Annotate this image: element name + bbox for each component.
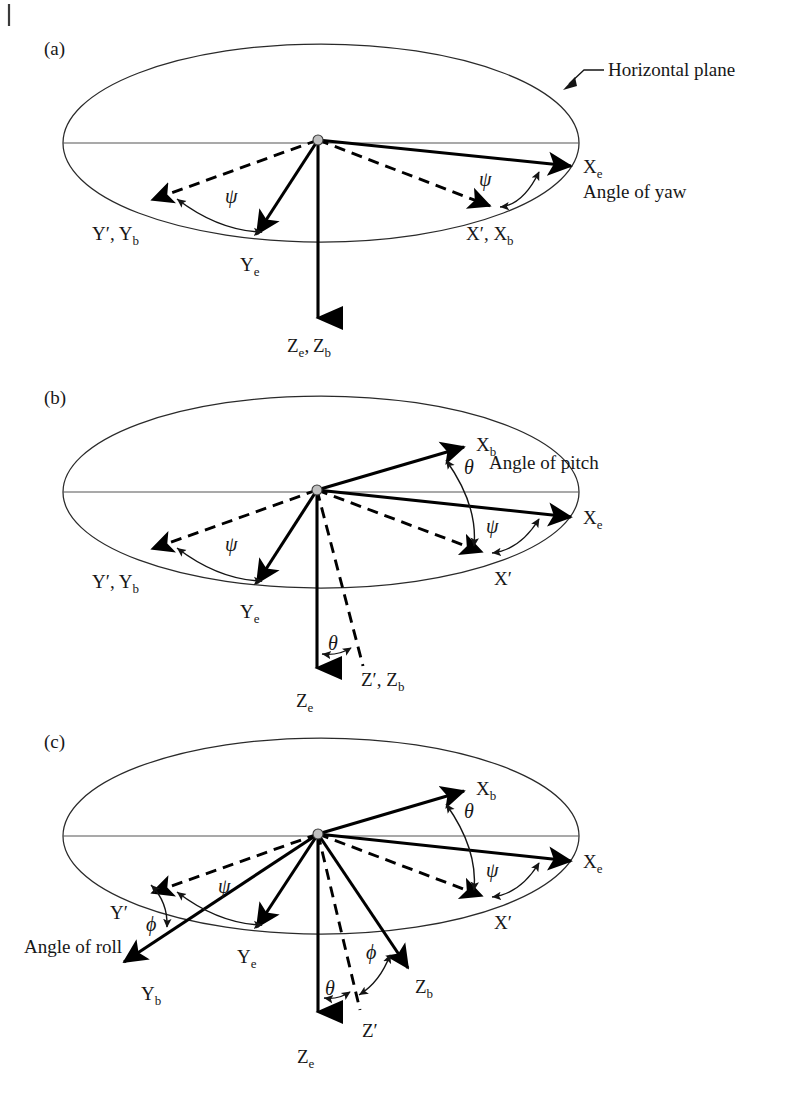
label-xe-c: Xe [583,851,603,876]
axis-zprime-zb-b [317,490,363,666]
label-yprime-yb-b: Y′, Yb [92,571,139,596]
angle-of-pitch-label: Angle of pitch [489,452,599,473]
figure-page: (a) Horizontal plane Xe Angle of yaw X′,… [0,0,804,1103]
origin-hub-b [312,485,322,495]
axis-yb-c [124,834,318,962]
label-yb-c: Yb [141,983,161,1008]
label-ze-c: Ze [297,1046,315,1071]
axis-ye-c [257,834,318,927]
theta-label-bottom-b: θ [328,632,338,654]
phi-label-bottom-c: ϕ [366,941,376,964]
label-zb-c: Zb [415,976,433,1001]
panel-c-roll [63,738,579,1012]
axis-ye-b [257,490,317,583]
panel-a-yaw [63,44,604,318]
psi-arc-left-b [177,548,262,581]
panel-label-c: (c) [44,731,65,753]
label-zprime-c: Z′ [362,1020,378,1041]
psi-arc-right-a [500,172,539,207]
angle-of-yaw-label: Angle of yaw [583,181,687,202]
origin-hub-c [313,829,323,839]
axis-yprime-c [152,834,318,893]
theta-label-top-b: θ [464,456,474,478]
label-yprime-c: Y′ [110,902,128,923]
horizontal-plane-arrowhead [563,77,577,90]
angle-of-roll-label: Angle of roll [24,936,122,957]
label-xprime-b: X′ [494,568,512,589]
label-xprime-xb-a: X′, Xb [466,223,514,248]
psi-label-right-a: ψ [479,168,492,191]
label-yprime-yb-a: Y′, Yb [92,223,139,248]
label-ye-a: Ye [240,254,260,279]
origin-hub-a [313,135,323,145]
axis-xe-a [318,140,571,166]
euler-angle-diagram: (a) Horizontal plane Xe Angle of yaw X′,… [0,0,804,1103]
label-ye-b: Ye [240,601,260,626]
panel-label-a: (a) [44,38,65,60]
label-ze-b: Ze [296,690,314,715]
theta-label-top-c: θ [464,800,474,822]
psi-label-right-b: ψ [486,515,499,538]
panel-label-b: (b) [44,387,66,409]
label-xb-c: Xb [476,778,496,803]
label-xe-a: Xe [583,156,603,181]
psi-label-right-c: ψ [486,859,499,882]
theta-label-bottom-c: θ [325,977,335,999]
psi-arc-left-a [177,199,262,232]
label-xprime-c: X′ [494,912,512,933]
panel-b-pitch [63,396,579,668]
psi-label-left-c: ψ [218,875,231,898]
label-xe-b: Xe [583,507,603,532]
label-ze-zb-a: Ze, Zb [287,335,331,360]
horizontal-plane-label: Horizontal plane [608,59,735,80]
label-zprime-zb-b: Z′, Zb [361,669,404,694]
psi-label-left-b: ψ [225,533,238,556]
axis-xb-c [318,791,464,834]
phi-label-left-c: ϕ [146,913,156,936]
psi-label-left-a: ψ [225,185,238,208]
axis-xb-b [317,447,464,490]
axis-zb-c [318,834,408,968]
label-ye-c: Ye [237,946,257,971]
axis-ye-a [257,140,318,234]
